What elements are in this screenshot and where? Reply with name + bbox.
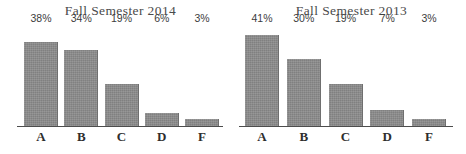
- bar-slot-b: 34%: [64, 26, 98, 126]
- bar-slot-a: 41%: [245, 26, 279, 126]
- bar-c: [329, 84, 363, 126]
- tick-label-a: A: [24, 128, 58, 150]
- bar-b: [287, 59, 321, 126]
- bar-a: [24, 42, 58, 126]
- tick-label-c: C: [329, 128, 363, 150]
- tick-label-a: A: [245, 128, 279, 150]
- tick-label-c: C: [105, 128, 139, 150]
- plot-area-fall-2014: 38% 34% 19% 6% 3%: [0, 26, 233, 126]
- bar-value-b: 34%: [71, 12, 92, 24]
- tick-label-d: D: [145, 128, 179, 150]
- bar-value-f: 3%: [194, 12, 209, 24]
- chart-panel-fall-2014: Fall Semester 2014 38% 34% 19% 6%: [0, 0, 233, 154]
- bar-group-fall-2013: 41% 30% 19% 7% 3%: [233, 26, 466, 126]
- bar-slot-f: 3%: [185, 26, 219, 126]
- bar-value-a: 38%: [30, 12, 51, 24]
- tick-label-d: D: [370, 128, 404, 150]
- bar-value-d: 6%: [154, 12, 169, 24]
- bar-slot-c: 19%: [105, 26, 139, 126]
- grade-distribution-figure: Fall Semester 2014 38% 34% 19% 6%: [0, 0, 466, 154]
- bar-slot-a: 38%: [24, 26, 58, 126]
- tick-label-f: F: [412, 128, 446, 150]
- x-axis-tick-labels-fall-2014: A B C D F: [0, 128, 233, 150]
- plot-area-fall-2013: 41% 30% 19% 7% 3%: [233, 26, 466, 126]
- bar-value-f: 3%: [421, 12, 436, 24]
- bar-value-c: 19%: [111, 12, 132, 24]
- bar-value-a: 41%: [251, 12, 272, 24]
- bar-slot-f: 3%: [412, 26, 446, 126]
- bar-f: [412, 119, 446, 126]
- tick-label-b: B: [64, 128, 98, 150]
- bar-slot-c: 19%: [329, 26, 363, 126]
- bar-a: [245, 35, 279, 126]
- bar-value-b: 30%: [293, 12, 314, 24]
- bar-slot-d: 7%: [370, 26, 404, 126]
- x-axis-tick-labels-fall-2013: A B C D F: [233, 128, 466, 150]
- bar-group-fall-2014: 38% 34% 19% 6% 3%: [0, 26, 233, 126]
- bar-d: [370, 110, 404, 126]
- bar-value-d: 7%: [380, 12, 395, 24]
- tick-label-b: B: [287, 128, 321, 150]
- bar-c: [105, 84, 139, 126]
- bar-b: [64, 50, 98, 126]
- bar-slot-b: 30%: [287, 26, 321, 126]
- x-axis-line-fall-2014: [17, 126, 223, 127]
- tick-label-f: F: [185, 128, 219, 150]
- bar-slot-d: 6%: [145, 26, 179, 126]
- bar-d: [145, 113, 179, 126]
- bar-value-c: 19%: [335, 12, 356, 24]
- bar-f: [185, 119, 219, 126]
- x-axis-line-fall-2013: [239, 126, 453, 127]
- chart-panel-fall-2013: Fall Semester 2013 41% 30% 19% 7%: [233, 0, 466, 154]
